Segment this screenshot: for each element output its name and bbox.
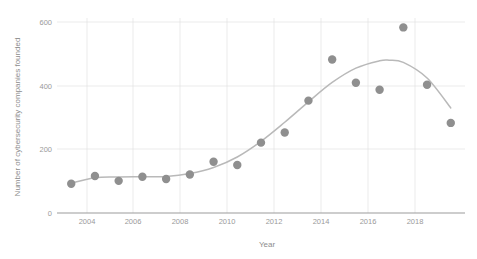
x-tick-label-2018: 2018 — [407, 217, 424, 226]
x-axis-title: Year — [259, 240, 276, 249]
y-tick-label-0: 0 — [48, 209, 52, 218]
data-point-2017[interactable] — [399, 23, 407, 31]
data-point-2019[interactable] — [447, 119, 455, 127]
data-point-2012[interactable] — [281, 128, 289, 136]
x-tick-label-2008: 2008 — [172, 217, 189, 226]
data-point-2015[interactable] — [352, 79, 360, 87]
y-tick-label-400: 400 — [39, 82, 52, 91]
data-point-2014[interactable] — [328, 55, 336, 63]
data-points-group — [67, 23, 455, 188]
data-point-2006[interactable] — [138, 173, 146, 181]
data-point-2016[interactable] — [375, 86, 383, 94]
data-point-2010[interactable] — [233, 161, 241, 169]
x-tick-label-2012: 2012 — [266, 217, 283, 226]
data-point-2009[interactable] — [209, 158, 217, 166]
data-point-2018[interactable] — [423, 81, 431, 89]
horizontal-gridlines — [57, 22, 465, 149]
scatter-chart: 600 400 200 0 2004 2006 2008 2010 2012 2… — [0, 0, 477, 259]
data-point-2004[interactable] — [91, 172, 99, 180]
trend-curve — [71, 60, 451, 183]
data-point-2011[interactable] — [257, 138, 265, 146]
data-point-2003[interactable] — [67, 180, 75, 188]
x-tick-label-2014: 2014 — [313, 217, 330, 226]
data-point-2007[interactable] — [162, 175, 170, 183]
x-tick-label-2004: 2004 — [79, 217, 96, 226]
y-tick-label-600: 600 — [39, 18, 52, 27]
x-tick-label-2016: 2016 — [360, 217, 377, 226]
data-point-2008[interactable] — [186, 170, 194, 178]
y-tick-label-200: 200 — [39, 145, 52, 154]
chart-container: 600 400 200 0 2004 2006 2008 2010 2012 2… — [0, 0, 477, 259]
x-tick-label-2006: 2006 — [125, 217, 142, 226]
x-tick-label-2010: 2010 — [219, 217, 236, 226]
vertical-gridlines — [87, 18, 415, 213]
data-point-2013[interactable] — [304, 96, 312, 104]
y-axis-title: Number of cybersecurity companies founde… — [13, 38, 22, 197]
data-point-2005[interactable] — [114, 177, 122, 185]
